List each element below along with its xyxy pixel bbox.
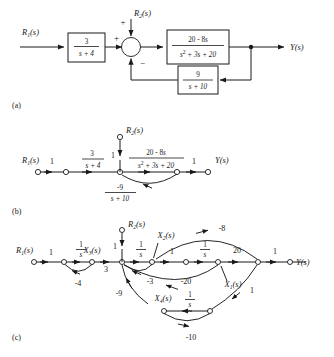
part-a-forward-block-num: 3 xyxy=(85,38,89,46)
part-c-int-x2-den: s xyxy=(140,251,143,259)
part-c-gain-input: 1 xyxy=(49,248,53,257)
part-c-x2-label: X2(s) xyxy=(157,230,175,241)
part-c-node-outjunction xyxy=(256,260,261,265)
part-a-summing-junction xyxy=(122,38,141,57)
part-b-feedback-arc xyxy=(122,174,177,183)
part-a-sign-left: + xyxy=(114,33,119,43)
part-c-gain-x4-branch: -9 xyxy=(116,289,123,298)
part-b-group: R1(s) 1 3 s + 4 R2(s) 1 20 - 8s s2 + 3s … xyxy=(12,125,229,216)
part-b-node-2 xyxy=(63,169,68,174)
part-b-r2-label: R2(s) xyxy=(125,125,143,136)
part-b-gain-r2: 1 xyxy=(111,151,115,160)
part-a-r2-label: R2(s) xyxy=(133,8,151,19)
caption-b: (b) xyxy=(12,207,22,216)
part-c-gain-x1-feedback: -20 xyxy=(181,277,192,286)
part-c-group: R1(s) 1 1 s X3(s) -4 3 R2(s) 1 1 s xyxy=(12,219,310,342)
part-b-g2-num: 20 - 8s xyxy=(146,149,166,157)
part-c-node-x4-right xyxy=(208,309,213,314)
part-c-int-x3-den: s xyxy=(80,251,83,259)
part-c-node-a xyxy=(62,260,67,265)
part-c-x3-selfloop-arc xyxy=(65,265,92,272)
part-c-node-x4 xyxy=(162,309,167,314)
part-c-node-y xyxy=(288,260,293,265)
part-b-gain-input: 1 xyxy=(50,157,54,166)
part-a-y-label: Y(s) xyxy=(290,42,304,52)
part-c-node-r2 xyxy=(120,228,125,233)
part-c-gain-x3-selfloop: -4 xyxy=(75,279,82,288)
part-a-sign-bottom: − xyxy=(140,58,145,68)
part-c-x3-label: X3(s) xyxy=(83,245,101,256)
part-a-feedback-den: s + 10 xyxy=(189,83,208,91)
part-c-gain-output: 1 xyxy=(273,247,277,256)
part-c-int-x1-den: s xyxy=(204,251,207,259)
part-b-node-r1 xyxy=(35,169,40,174)
caption-c: (c) xyxy=(12,333,21,342)
part-c-r2-label: R2(s) xyxy=(127,219,145,230)
part-b-node-r2 xyxy=(117,134,122,139)
part-c-x1-feedback-arc xyxy=(124,265,218,280)
part-c-node-r1 xyxy=(32,260,37,265)
part-b-gain-output: 1 xyxy=(192,157,196,166)
part-c-x1-feedback-arrow xyxy=(166,285,178,289)
part-c-gain-x3-to-sum: 3 xyxy=(104,265,108,274)
part-b-h-den: s + 10 xyxy=(111,195,130,203)
part-c-int-x1-num: 1 xyxy=(203,241,207,249)
part-b-y-label: Y(s) xyxy=(215,155,229,165)
part-c-node-x1 xyxy=(216,260,221,265)
part-c-int-x2-num: 1 xyxy=(139,241,143,249)
part-c-top-feedback-arrow xyxy=(196,230,208,233)
part-c-node-x2 xyxy=(150,260,155,265)
part-b-feedback-arrow xyxy=(143,184,152,188)
part-c-int-x4-num: 1 xyxy=(188,291,192,299)
figure-root: R1(s) 3 s + 4 + + − R2(s) 20 - 8s s2 + 3… xyxy=(0,0,334,357)
part-b-h-num: -9 xyxy=(117,184,123,192)
part-a-feedback-num: 9 xyxy=(196,71,200,79)
part-b-node-y xyxy=(205,169,210,174)
part-c-gain-r2: 1 xyxy=(113,242,117,251)
part-c-gain-y-to-x4: 1 xyxy=(250,286,254,295)
part-a-forward-block-den: s + 4 xyxy=(79,50,94,58)
part-c-gain-top-feedback: -8 xyxy=(219,224,226,233)
part-c-r1-label: R1(s) xyxy=(15,245,33,256)
part-b-g1-den: s + 4 xyxy=(86,162,101,170)
part-c-int-x4-den: s xyxy=(189,301,192,309)
part-c-y-label: Y(s) xyxy=(296,257,310,267)
part-c-x2-leader xyxy=(154,243,159,258)
part-c-gain-x4-selfloop: -10 xyxy=(186,333,197,342)
part-b-r1-label: R1(s) xyxy=(21,155,39,166)
part-c-node-b xyxy=(184,260,189,265)
part-a-plant-den: s2 + 3s + 20 xyxy=(180,49,216,59)
part-c-x4-selfloop-arrow xyxy=(178,324,189,326)
part-a-sign-top: + xyxy=(121,17,126,27)
caption-a: (a) xyxy=(12,101,21,110)
part-b-g2-den: s2 + 3s + 20 xyxy=(138,160,174,170)
part-c-gain-x2-feedback: -3 xyxy=(147,277,154,286)
part-a-r1-label: R1(s) xyxy=(21,27,39,38)
part-c-x4-branch-arrow xyxy=(126,278,132,289)
part-c-x4-label: X4(s) xyxy=(154,293,172,304)
figure-svg: R1(s) 3 s + 4 + + − R2(s) 20 - 8s s2 + 3… xyxy=(0,0,334,357)
part-b-g1-num: 3 xyxy=(90,150,94,158)
part-a-group: R1(s) 3 s + 4 + + − R2(s) 20 - 8s s2 + 3… xyxy=(12,8,304,110)
part-c-node-x3 xyxy=(90,260,95,265)
part-b-node-out xyxy=(174,169,179,174)
part-c-x4-selfloop-arc xyxy=(164,314,210,321)
part-a-plant-num: 20 - 8s xyxy=(188,36,208,44)
